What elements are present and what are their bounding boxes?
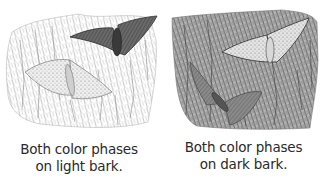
panel-light-bark: Both color phases on light bark. (0, 0, 162, 177)
caption-light-bark: Both color phases on light bark. (0, 141, 160, 175)
caption-line-1: Both color phases (162, 139, 325, 156)
panel-dark-bark: Both color phases on dark bark. (162, 0, 325, 177)
caption-line-1: Both color phases (0, 141, 160, 158)
dark-bark-illustration (162, 0, 325, 135)
caption-dark-bark: Both color phases on dark bark. (162, 139, 325, 173)
light-bark-illustration (0, 0, 162, 135)
caption-line-2: on dark bark. (162, 156, 325, 173)
caption-line-2: on light bark. (0, 158, 160, 175)
